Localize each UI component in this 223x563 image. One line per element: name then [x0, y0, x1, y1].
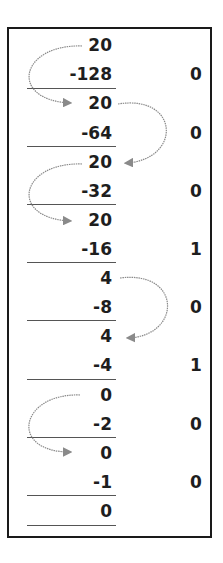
arrow-left-icon	[29, 46, 82, 103]
carry-arrows	[0, 0, 223, 563]
arrow-left-icon	[29, 164, 82, 221]
arrow-left-icon	[29, 395, 80, 452]
arrow-right-icon	[120, 277, 168, 338]
arrow-right-icon	[118, 103, 166, 163]
